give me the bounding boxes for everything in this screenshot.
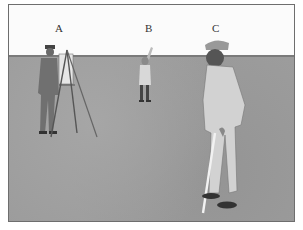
figures-drawing — [9, 5, 295, 222]
illustration-frame: A B C — [8, 4, 295, 222]
painter-figure-a — [38, 45, 97, 137]
old-man-figure-c — [202, 40, 245, 213]
child-figure-b — [139, 47, 153, 102]
